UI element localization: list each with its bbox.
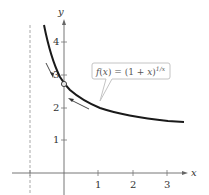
y-tick-label: 2 bbox=[53, 102, 59, 113]
y-axis-arrow-icon bbox=[62, 19, 66, 25]
y-tick-label: 1 bbox=[53, 134, 59, 145]
y-tick-label: 4 bbox=[53, 36, 59, 47]
x-tick-label: 3 bbox=[164, 179, 170, 190]
y-axis-label: y bbox=[57, 6, 64, 17]
function-label: f(x) = (1 + x)1/x bbox=[95, 65, 166, 77]
limit-point bbox=[61, 81, 66, 86]
x-axis-arrow-icon bbox=[182, 171, 188, 175]
function-callout: f(x) = (1 + x)1/x bbox=[92, 63, 170, 101]
x-tick-label: 2 bbox=[130, 179, 136, 190]
function-graph: x y 1 2 3 4 3 2 1 f(x) = (1 + x)1/x bbox=[0, 0, 209, 195]
x-axis-label: x bbox=[191, 167, 197, 178]
x-tick-label: 1 bbox=[95, 179, 101, 190]
